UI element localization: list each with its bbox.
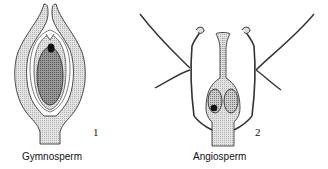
panel-number-1: 1 (93, 126, 99, 138)
angiosperm-ovule-right (224, 89, 238, 113)
caption-gymnosperm: Gymnosperm (22, 151, 82, 162)
panel-number-2: 2 (255, 126, 261, 138)
diagram-canvas (0, 0, 328, 169)
gymnosperm-ovule (15, 4, 86, 144)
angiosperm-egg (211, 105, 218, 112)
gymnosperm-egg (48, 44, 55, 53)
gymnosperm-gametophyte (37, 47, 63, 105)
angiosperm-flower (140, 14, 314, 146)
caption-angiosperm: Angiosperm (193, 151, 246, 162)
